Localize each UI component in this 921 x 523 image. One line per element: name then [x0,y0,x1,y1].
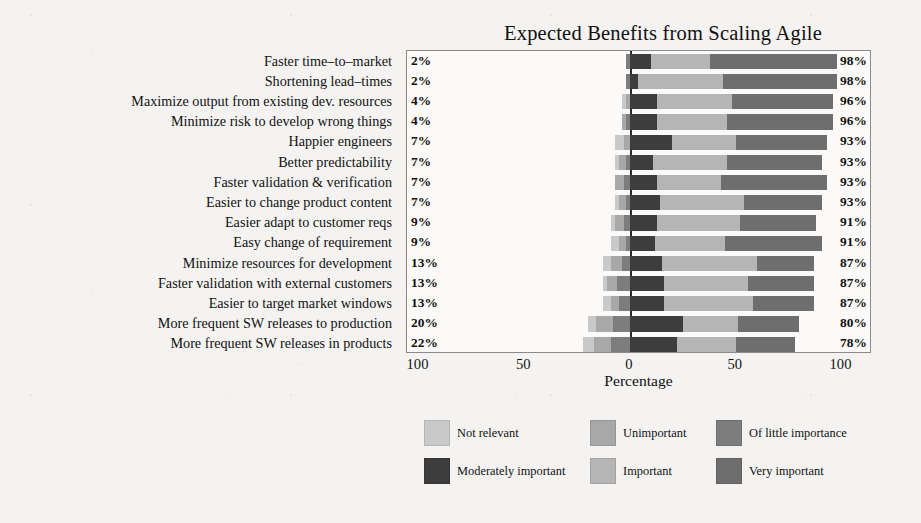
bar-segment [603,296,611,311]
legend-item[interactable]: Unimportant [590,418,686,448]
bar-row [407,213,870,233]
bar-segment [611,296,619,311]
bar-segment [738,316,799,331]
negative-total-label: 13% [411,253,445,273]
stacked-bar [407,94,870,109]
category-label: Easier to target market windows [0,293,396,313]
negative-total-label: 7% [411,152,445,172]
positive-total-label: 96% [840,111,882,131]
bar-segment [615,195,619,210]
bar-segment [630,175,657,190]
negative-total-label: 20% [411,313,445,333]
positive-total-label: 80% [840,313,882,333]
positive-total-label: 98% [840,51,882,71]
bar-row [407,72,870,92]
bar-segment [619,236,625,251]
stacked-bar [407,175,870,190]
plot-area [406,50,871,353]
x-tick-label: 50 [727,356,742,373]
bar-row [407,314,870,334]
bar-segment [630,114,657,129]
x-tick-label: 100 [407,356,429,373]
legend-label: Important [623,464,672,479]
bar-segment [630,276,664,291]
bar-segment [727,114,833,129]
bar-segment [630,135,672,150]
category-label: Shortening lead–times [0,71,396,91]
legend-label: Very important [749,464,824,479]
positive-total-label: 87% [840,293,882,313]
bar-segment [611,215,615,230]
bar-row [407,294,870,314]
legend-label: Of little importance [749,426,847,441]
bar-segment [662,256,757,271]
category-label: Easier to change product content [0,192,396,212]
bar-segment [630,54,651,69]
bar-segment [651,54,710,69]
bar-segment [615,155,619,170]
bar-segment [657,215,739,230]
legend-label: Unimportant [623,426,686,441]
negative-total-label: 13% [411,293,445,313]
positive-total-label: 93% [840,131,882,151]
positive-total-label: 98% [840,71,882,91]
bar-segment [657,114,727,129]
bar-segment [630,236,655,251]
bar-segment [622,256,630,271]
chart-figure: Expected Benefits from Scaling Agile Fas… [0,0,921,523]
negative-total-label: 13% [411,273,445,293]
bar-segment [603,256,611,271]
bar-segment [740,215,816,230]
bar-segment [611,337,630,352]
category-label: Faster time–to–market [0,51,396,71]
bar-segment [727,155,822,170]
category-axis-labels: Faster time–to–marketShortening lead–tim… [0,50,396,353]
legend-item[interactable]: Moderately important [424,456,565,486]
negative-total-label: 2% [411,71,445,91]
legend-swatch [590,420,616,446]
bar-row [407,153,870,173]
stacked-bar [407,276,870,291]
bar-segment [619,155,625,170]
stacked-bar [407,54,870,69]
bar-segment [613,316,630,331]
bar-segment [619,195,625,210]
category-label: Minimize risk to develop wrong things [0,111,396,131]
category-label: More frequent SW releases in products [0,333,396,353]
category-label: Better predictability [0,152,396,172]
negative-total-label: 2% [411,51,445,71]
bar-segment [725,236,822,251]
stacked-bar [407,114,870,129]
legend-item[interactable]: Very important [716,456,824,486]
bar-segment [596,316,613,331]
stacked-bar [407,337,870,352]
bar-segment [630,94,657,109]
legend-item[interactable]: Important [590,456,672,486]
bar-segment [615,135,623,150]
negative-total-label: 4% [411,91,445,111]
bar-row [407,254,870,274]
bar-row [407,112,870,132]
bar-segment [615,175,623,190]
bar-segment [611,256,622,271]
positive-total-label: 91% [840,212,882,232]
stacked-bar [407,195,870,210]
positive-total-label: 93% [840,152,882,172]
bar-segment [588,316,596,331]
bar-segment [607,276,618,291]
negative-total-label: 4% [411,111,445,131]
bar-segment [611,236,619,251]
bar-segment [653,155,727,170]
bar-segment [732,94,834,109]
legend-item[interactable]: Not relevant [424,418,519,448]
bar-segment [748,276,814,291]
stacked-bar [407,215,870,230]
stacked-bar [407,155,870,170]
stacked-bar [407,135,870,150]
category-label: Easier adapt to customer reqs [0,212,396,232]
bar-segment [630,256,662,271]
chart-title: Expected Benefits from Scaling Agile [405,22,921,45]
bar-segment [757,256,814,271]
bar-segment [617,276,630,291]
legend-item[interactable]: Of little importance [716,418,847,448]
